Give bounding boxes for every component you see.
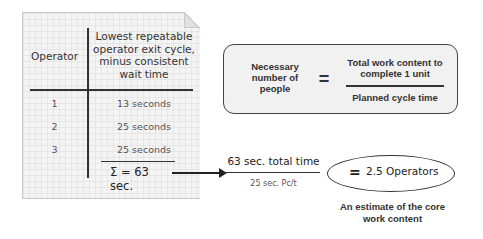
table-row-operator: 2 [22,121,87,132]
sum-total: Σ = 63 sec. [110,165,170,193]
column-header-operator: Operator [22,50,87,62]
column-header-time: Lowest repeatable operator exit cycle, m… [90,30,198,80]
arrow-right-icon [172,172,221,174]
table-row-time: 25 seconds [90,121,198,132]
result-value: 2.5 Operators [366,165,439,177]
formula-equals: = [314,70,334,88]
calculation-fraction-line [226,172,320,173]
result-caption: An estimate of the core work content [330,201,455,224]
table-row-time: 13 seconds [90,98,198,109]
sum-divider [101,161,175,162]
table-header-divider [30,89,193,91]
table-column-divider [87,28,89,178]
table-row-operator: 1 [22,98,87,109]
formula-denominator: Planned cycle time [345,92,445,103]
formula-fraction-line [346,85,444,87]
formula-lhs: Necessary number of people [240,61,310,94]
calculation-denominator: 25 sec. Pc/t [226,179,321,188]
table-row-operator: 3 [22,144,87,155]
result-equals: = [349,164,361,180]
calculation-numerator: 63 sec. total time [226,155,321,167]
table-row-time: 25 seconds [90,144,198,155]
arrow-head-icon [219,168,227,178]
formula-numerator: Total work content to complete 1 unit [345,57,445,79]
